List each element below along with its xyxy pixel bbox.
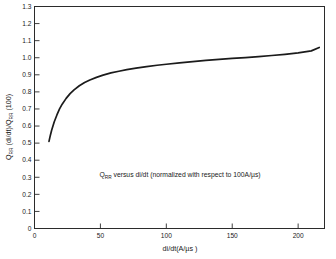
x-tick-label: 200 — [293, 232, 304, 239]
x-tick-label: 50 — [97, 232, 105, 239]
x-tick-label: 100 — [161, 232, 172, 239]
chart-plot-area: 00.10.20.30.40.50.60.70.80.91.01.11.21.3… — [0, 0, 336, 259]
x-axis-ticks: 050100150200 — [33, 224, 304, 239]
y-tick-label: 1.0 — [22, 54, 31, 61]
y-tick-label: 0.6 — [22, 122, 31, 129]
y-tick-label: 0.3 — [22, 174, 31, 181]
x-tick-label: 0 — [33, 232, 37, 239]
chart-annotation: QRR versus di/dt (normalized with respec… — [99, 171, 260, 180]
y-tick-label: 0.2 — [22, 191, 31, 198]
y-axis-title: QRR (di/dt)/QRR (100) — [4, 94, 14, 160]
series-line-qrr — [49, 47, 319, 141]
x-axis-title: di/dt(A/µs ) — [163, 244, 198, 253]
y-tick-label: 0.4 — [22, 156, 31, 163]
y-tick-label: 0.5 — [22, 139, 31, 146]
y-tick-label: 1.1 — [22, 37, 31, 44]
plot-frame — [35, 7, 325, 229]
y-axis-ticks: 00.10.20.30.40.50.60.70.80.91.01.11.21.3 — [22, 3, 39, 232]
y-tick-label: 0 — [28, 225, 32, 232]
chart-figure: 00.10.20.30.40.50.60.70.80.91.01.11.21.3… — [0, 0, 336, 259]
y-tick-label: 1.3 — [22, 3, 31, 10]
y-tick-label: 1.2 — [22, 20, 31, 27]
y-tick-label: 0.8 — [22, 88, 31, 95]
x-tick-label: 150 — [227, 232, 238, 239]
y-tick-label: 0.9 — [22, 71, 31, 78]
y-tick-label: 0.7 — [22, 105, 31, 112]
y-tick-label: 0.1 — [22, 208, 31, 215]
data-curve-group — [49, 47, 319, 141]
